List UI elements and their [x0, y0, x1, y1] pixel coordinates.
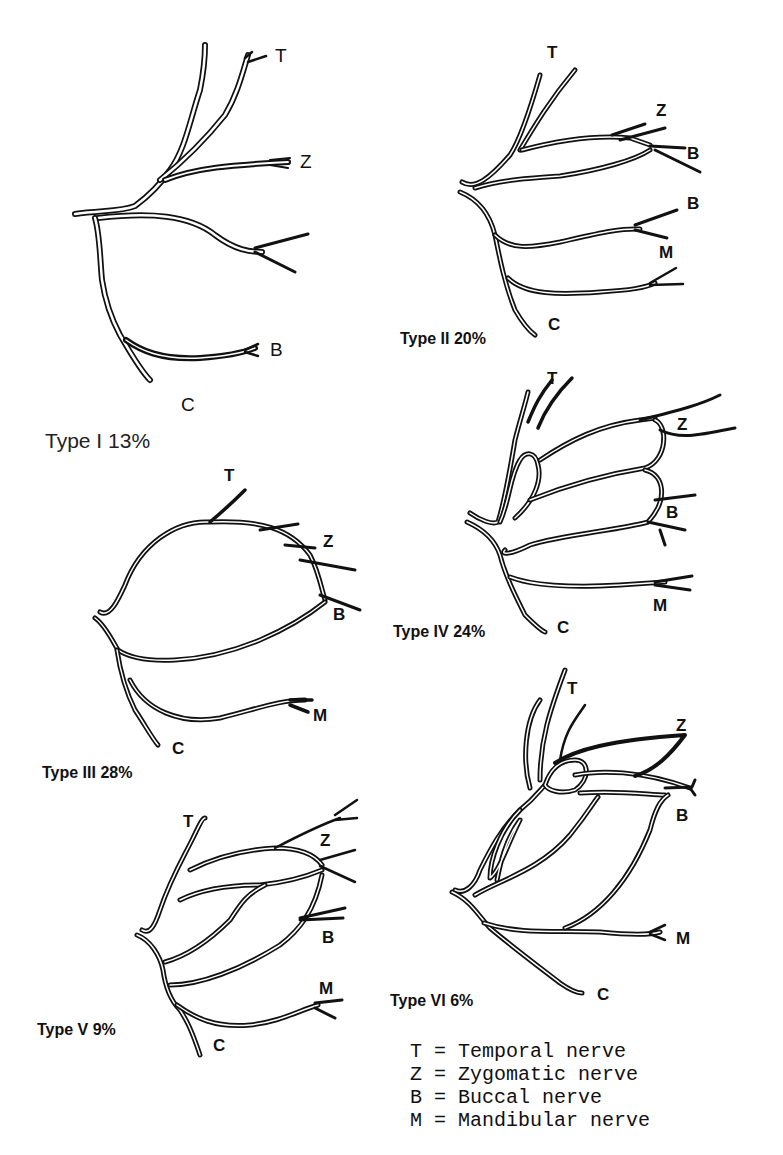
type-6-label-temporal: T — [567, 680, 577, 697]
type-3-caption: Type III 28% — [42, 765, 132, 781]
type-5-label-cervical: C — [213, 1037, 225, 1054]
type-2-label-temporal: T — [547, 44, 557, 61]
legend-row-zygomatic: Z = Zygomatic nerve — [410, 1063, 650, 1086]
type-4-label-cervical: C — [557, 619, 569, 636]
legend: T = Temporal nerve Z = Zygomatic nerve B… — [410, 1040, 650, 1132]
type-5-caption: Type V 9% — [37, 1022, 116, 1038]
legend-row-temporal: T = Temporal nerve — [410, 1040, 650, 1063]
legend-row-mandibular: M = Mandibular nerve — [410, 1109, 650, 1132]
type-2-caption: Type II 20% — [400, 331, 486, 347]
type-2-label-zygomatic: Z — [656, 102, 666, 119]
type-4-caption: Type IV 24% — [393, 624, 485, 640]
type-3-label-buccal: B — [333, 606, 345, 623]
type-6-label-mandibular: M — [676, 930, 690, 947]
type-4-label-buccal: B — [666, 504, 678, 521]
type-4-label-mandibular: M — [653, 597, 667, 614]
type-6-label-buccal: B — [676, 807, 688, 824]
type-6-label-zygomatic: Z — [676, 717, 686, 734]
type-1-label-temporal: T — [275, 46, 287, 65]
type-1-diagram — [75, 45, 308, 380]
type-5-label-buccal: B — [322, 929, 334, 946]
type-2-label-buccal-lower: B — [687, 195, 699, 212]
type-2-label-cervical: C — [548, 316, 560, 333]
type-1-label-zygomatic: Z — [300, 152, 312, 171]
type-6-label-cervical: C — [597, 986, 609, 1003]
legend-row-buccal: B = Buccal nerve — [410, 1086, 650, 1109]
type-1-label-cervical: C — [181, 395, 195, 414]
type-1-label-buccal: B — [270, 340, 283, 359]
type-6-caption: Type VI 6% — [390, 993, 473, 1009]
type-3-label-mandibular: M — [313, 707, 327, 724]
type-4-label-temporal: T — [547, 370, 557, 387]
type-1-caption: Type I 13% — [45, 430, 150, 451]
type-2-label-buccal-upper: B — [687, 145, 699, 162]
type-4-diagram — [467, 378, 735, 632]
nerve-diagrams-canvas — [0, 0, 783, 1155]
type-3-label-temporal: T — [224, 467, 234, 484]
type-3-label-cervical: C — [172, 740, 184, 757]
type-4-label-zygomatic: Z — [677, 416, 687, 433]
type-5-label-zygomatic: Z — [320, 832, 330, 849]
type-3-label-zygomatic: Z — [323, 533, 333, 550]
type-2-label-mandibular: M — [659, 244, 673, 261]
type-6-diagram — [452, 670, 695, 993]
type-5-label-mandibular: M — [319, 980, 333, 997]
type-5-label-temporal: T — [183, 813, 193, 830]
